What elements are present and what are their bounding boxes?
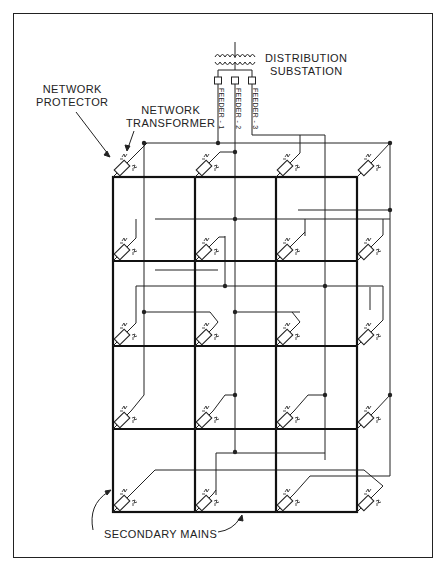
- network-protector-label: NETWORK PROTECTOR: [36, 83, 108, 109]
- feeder-2-label: FEEDER - 2: [235, 88, 242, 130]
- feeder-1-label: FEEDER - 1: [218, 88, 225, 130]
- substation-label-line2: SUBSTATION: [265, 65, 347, 78]
- unit-connections: [131, 135, 390, 494]
- substation-transformer-icon: [215, 42, 256, 84]
- substation-label: DISTRIBUTION SUBSTATION: [265, 52, 347, 78]
- network-units: [113, 154, 381, 512]
- network-transformer-label-line2: TRANSFORMER: [126, 117, 215, 130]
- network-transformer-label: NETWORK TRANSFORMER: [126, 104, 215, 130]
- junction-dots: [142, 141, 392, 454]
- primary-feeders: [136, 84, 390, 495]
- network-transformer-label-line1: NETWORK: [126, 104, 215, 117]
- network-protector-label-line1: NETWORK: [36, 83, 108, 96]
- secondary-mains-label: SECONDARY MAINS: [104, 528, 217, 541]
- substation-label-line1: DISTRIBUTION: [265, 52, 347, 65]
- network-protector-label-line2: PROTECTOR: [36, 96, 108, 109]
- feeder-3-label: FEEDER - 3: [252, 88, 259, 130]
